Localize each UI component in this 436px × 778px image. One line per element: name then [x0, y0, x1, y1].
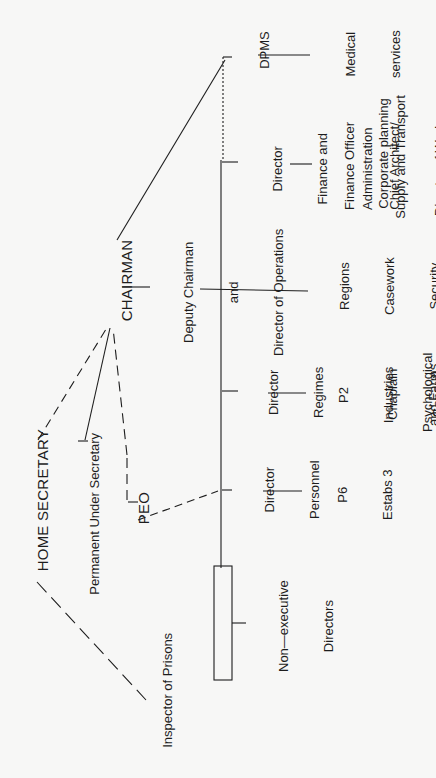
- medical-services-label: Medical services: [313, 30, 418, 78]
- home-secretary-label: HOME SECRETARY: [20, 429, 50, 580]
- dpms-label: DPMS: [242, 31, 272, 76]
- peo-label: PEO: [121, 492, 151, 533]
- non-executive-bracket: [214, 566, 232, 680]
- psychological-services-label: Psychological services: [390, 353, 436, 433]
- p6-units-label: P6 Estabs 3: [305, 469, 410, 520]
- non-executive-directors-label: Non—executive Directors: [246, 580, 351, 672]
- pus-chairman-line: [85, 328, 110, 440]
- chairman-label: CHAIRMAN: [104, 240, 134, 330]
- chairman-dpms-line: [117, 60, 225, 240]
- regions-label: Regions Casework Security and Control: [307, 257, 436, 315]
- permanent-under-secretary-label: Permanent Under Secretary: [72, 433, 102, 602]
- peo-chairman-line-upper: [113, 328, 127, 455]
- deputy-chairman-label: Deputy Chairman and Director of Operatio…: [151, 229, 301, 356]
- inspector-of-prisons-label: Inspector of Prisons: [145, 633, 175, 755]
- supply-transport-label: Supply and Transport: [378, 95, 408, 226]
